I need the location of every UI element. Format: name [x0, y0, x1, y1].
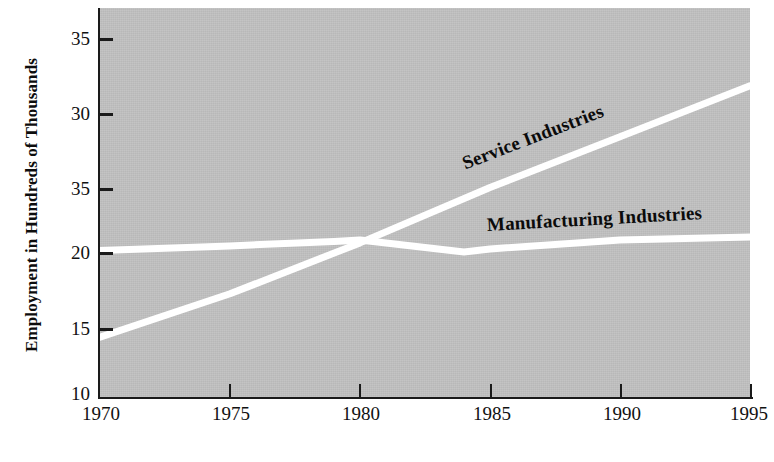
x-tick-label-1975: 1975 [186, 404, 276, 424]
x-tick-label-1970: 1970 [56, 404, 146, 424]
x-tick-label-1995: 1995 [704, 404, 774, 424]
x-tick-label-1990: 1990 [577, 404, 667, 424]
x-axis-tick-labels: 1970 1975 1980 1985 1990 1995 [0, 0, 774, 462]
line-chart-figure: Employment in Hundreds of Thousands 35 3… [0, 0, 774, 462]
x-tick-label-1985: 1985 [447, 404, 537, 424]
x-tick-label-1980: 1980 [316, 404, 406, 424]
